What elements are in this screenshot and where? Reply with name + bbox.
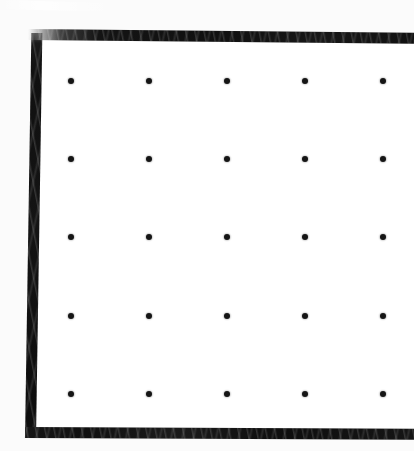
frame-border-top-taper xyxy=(0,0,120,12)
frame-border-bottom xyxy=(25,427,414,440)
paper-surface xyxy=(33,38,414,429)
frame-border-bottom-texture xyxy=(25,427,414,440)
scanned-page xyxy=(0,0,414,451)
